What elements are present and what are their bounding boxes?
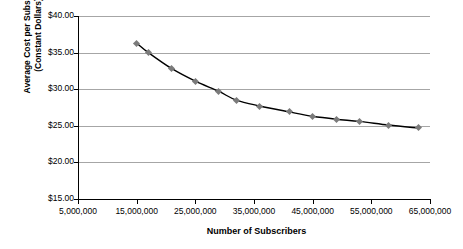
y-tick-mark <box>74 162 78 163</box>
x-tick-mark <box>137 199 138 204</box>
x-tick-mark <box>430 199 431 204</box>
x-axis-title-text: Number of Subscribers <box>207 226 307 236</box>
x-tick-mark <box>78 199 79 204</box>
x-tick-mark <box>371 199 372 204</box>
y-tick-mark <box>74 126 78 127</box>
y-tick-mark <box>74 199 78 200</box>
x-axis-title: Number of Subscribers <box>0 226 463 236</box>
y-tick-mark <box>74 16 78 17</box>
y-tick-mark <box>74 89 78 90</box>
x-tick-label: 65,000,000 <box>395 206 463 216</box>
x-tick-mark <box>313 199 314 204</box>
series-path <box>137 43 419 128</box>
x-tick-mark <box>195 199 196 204</box>
cost-per-subscriber-chart: Average Cost per Subscriber (Constant Do… <box>0 0 463 249</box>
y-tick-mark <box>74 53 78 54</box>
x-tick-mark <box>254 199 255 204</box>
